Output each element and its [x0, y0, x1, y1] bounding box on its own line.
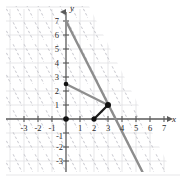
x-tick-label: 5	[134, 123, 138, 133]
x-tick-label: -1	[48, 123, 55, 133]
y-tick-label: -2	[56, 142, 63, 152]
x-tick-label: 3	[106, 123, 110, 133]
x-tick-label: -2	[34, 123, 41, 133]
y-tick-label: 2	[55, 86, 59, 96]
y-tick-label: 3	[55, 72, 59, 82]
y-tick-label: 5	[55, 44, 59, 54]
y-tick-label: 6	[55, 30, 59, 40]
y-axis-label: y	[69, 3, 74, 13]
x-tick-label: 1	[78, 123, 82, 133]
point-y-intercept	[64, 82, 69, 87]
point-x-intercept	[91, 116, 96, 121]
x-tick-label: 6	[148, 123, 152, 133]
y-tick-label: 1	[55, 100, 59, 110]
y-tick-label: 7	[55, 16, 59, 26]
x-tick-label: 7	[162, 123, 166, 133]
coordinate-plane-svg: x y -3 -2 -1 1 2 3 4 5 6 7 7 6 5 4 3 2 1…	[0, 0, 186, 180]
x-tick-label: -3	[20, 123, 27, 133]
x-axis-label: x	[171, 114, 176, 124]
y-tick-label: -3	[56, 156, 63, 166]
point-vertex	[105, 102, 111, 108]
y-tick-label: -1	[56, 131, 63, 141]
point-origin	[63, 116, 69, 122]
graph-figure: x y -3 -2 -1 1 2 3 4 5 6 7 7 6 5 4 3 2 1…	[0, 0, 186, 180]
x-tick-label: 2	[92, 123, 96, 133]
hatched-region	[6, 0, 186, 180]
